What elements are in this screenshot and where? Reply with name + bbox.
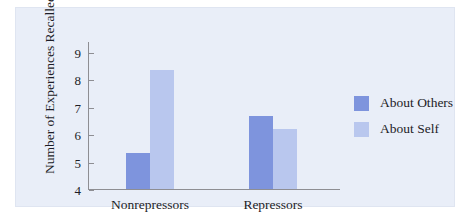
x-category-label-repressors: Repressors bbox=[243, 197, 302, 213]
y-axis-title: Number of Experiences Recalled bbox=[40, 0, 58, 22]
legend-item-about-self: About Self bbox=[354, 116, 464, 142]
legend-swatch-about-self bbox=[354, 122, 369, 137]
bar-nonrepressors-about-self bbox=[150, 70, 174, 189]
y-axis-line bbox=[88, 42, 89, 190]
y-tick-mark bbox=[89, 108, 94, 109]
bar-repressors-about-self bbox=[273, 129, 297, 189]
plot-area: 456789 NonrepressorsRepressors bbox=[88, 42, 338, 190]
y-tick-mark bbox=[89, 80, 94, 81]
legend-label-about-self: About Self bbox=[380, 121, 439, 137]
legend-label-about-others: About Others bbox=[380, 95, 453, 111]
y-tick-label: 4 bbox=[75, 184, 82, 197]
chart-legend: About Others About Self bbox=[354, 90, 464, 142]
y-axis-title-text: Number of Experiences Recalled bbox=[42, 14, 58, 174]
bar-repressors-about-others bbox=[249, 116, 273, 189]
y-tick-label: 5 bbox=[75, 156, 82, 169]
y-tick-mark bbox=[89, 190, 94, 191]
y-tick-mark bbox=[89, 135, 94, 136]
legend-swatch-about-others bbox=[354, 96, 369, 111]
y-tick-label: 6 bbox=[75, 129, 82, 142]
bar-nonrepressors-about-others bbox=[126, 153, 150, 189]
y-tick-label: 8 bbox=[75, 74, 82, 87]
bar-chart-figure: Number of Experiences Recalled 456789 No… bbox=[0, 0, 470, 221]
y-tick-mark bbox=[89, 163, 94, 164]
legend-item-about-others: About Others bbox=[354, 90, 464, 116]
x-category-label-nonrepressors: Nonrepressors bbox=[111, 197, 189, 213]
chart-panel: Number of Experiences Recalled 456789 No… bbox=[16, 8, 454, 206]
y-tick-label: 9 bbox=[75, 46, 82, 59]
x-axis-line bbox=[88, 189, 340, 190]
y-tick-label: 7 bbox=[75, 101, 82, 114]
y-tick-mark bbox=[89, 53, 94, 54]
